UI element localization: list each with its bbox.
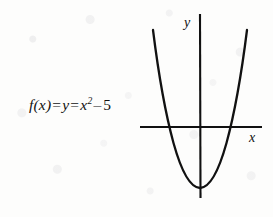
y-axis-label: y	[184, 16, 190, 30]
x-axis-label: x	[249, 131, 255, 145]
coordinate-plot	[0, 0, 273, 217]
figure-canvas: f(x)=y=x2–5 y x	[0, 0, 273, 217]
y-axis-line	[200, 14, 201, 198]
